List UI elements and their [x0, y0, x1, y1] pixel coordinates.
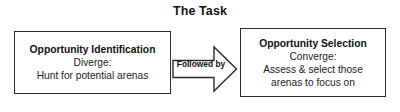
page-title: The Task	[0, 4, 400, 18]
process-box-opportunity-selection: Opportunity Selection Converge: Assess &…	[240, 28, 386, 97]
box-heading: Opportunity Selection	[259, 37, 367, 50]
diagram-canvas: The Task Opportunity Identification Dive…	[0, 0, 400, 112]
box-line-2: Hunt for potential arenas	[37, 69, 149, 82]
box-heading: Opportunity Identification	[30, 43, 156, 56]
box-line-3: arenas to focus on	[271, 76, 355, 89]
box-line-1: Diverge:	[74, 56, 112, 69]
box-line-2: Assess & select those	[263, 63, 363, 76]
right-block-arrow-icon	[172, 45, 238, 93]
arrow-label-followed-by: Followed by	[172, 59, 230, 69]
process-box-opportunity-identification: Opportunity Identification Diverge: Hunt…	[14, 31, 171, 94]
box-line-1: Converge:	[289, 50, 336, 63]
